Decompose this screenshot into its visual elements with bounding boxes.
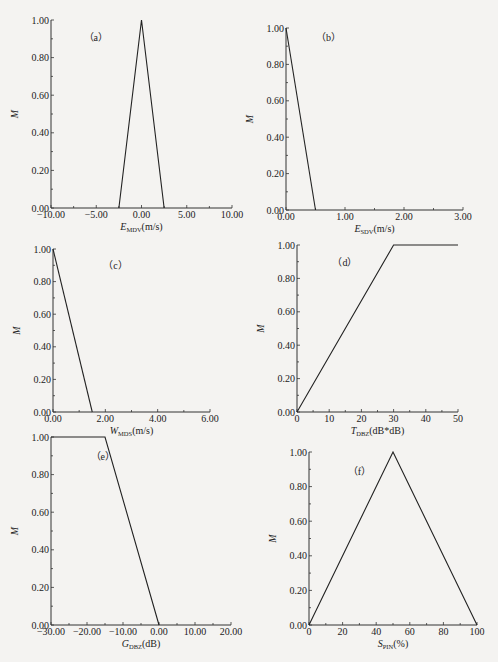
x-axis-label-variable: G bbox=[122, 638, 129, 649]
x-axis-label: EMDV(m/s) bbox=[119, 221, 162, 233]
x-axis-label: SPIN(%) bbox=[378, 638, 408, 650]
y-tick-label: 0.20 bbox=[32, 165, 50, 176]
y-tick-label: 0.20 bbox=[34, 374, 52, 385]
x-tick-label: 6.00 bbox=[201, 413, 219, 424]
y-tick-label: 1.00 bbox=[267, 23, 285, 34]
x-axis-label-subscript: DBZ bbox=[129, 643, 142, 650]
x-axis-label-unit: (%) bbox=[393, 638, 408, 650]
x-tick-label: 4.00 bbox=[149, 413, 167, 424]
y-tick-label: 0.40 bbox=[290, 550, 308, 561]
x-tick-label: −5.00 bbox=[85, 209, 108, 220]
y-tick-label: 0.60 bbox=[267, 95, 285, 106]
y-tick-label: 0.40 bbox=[32, 127, 50, 138]
y-tick-label: 0.60 bbox=[290, 516, 308, 527]
y-tick-label: 1.00 bbox=[34, 244, 52, 255]
x-tick-label: 2.00 bbox=[395, 211, 413, 222]
x-tick-label: 2.00 bbox=[97, 413, 115, 424]
x-axis-label-unit: (m/s) bbox=[142, 221, 163, 233]
x-tick-label: 40 bbox=[421, 413, 431, 424]
x-tick-label: 60 bbox=[405, 626, 415, 637]
y-tick-label: 0.80 bbox=[32, 52, 50, 63]
x-axis-label: ESDV(m/s) bbox=[353, 223, 394, 235]
x-axis-label-subscript: MDS bbox=[118, 430, 132, 437]
x-tick-label: 0.00 bbox=[44, 413, 62, 424]
x-axis-label-variable: E bbox=[353, 223, 360, 234]
x-axis-label-subscript: PIN bbox=[383, 643, 394, 650]
y-tick-label: 0.40 bbox=[32, 544, 50, 555]
y-tick-label: 0.40 bbox=[267, 132, 285, 143]
x-tick-label: 20 bbox=[338, 626, 348, 637]
y-axis-label: M bbox=[267, 534, 278, 544]
x-axis-label: TDBZ(dB*dB) bbox=[351, 425, 405, 437]
x-tick-label: 20.00 bbox=[220, 626, 243, 637]
y-tick-label: 0.80 bbox=[290, 481, 308, 492]
y-tick-label: 0.60 bbox=[34, 309, 52, 320]
subplot-a: 0.000.200.400.600.801.00−10.00−5.000.005… bbox=[9, 15, 243, 234]
membership-line bbox=[53, 249, 92, 412]
y-axis-label: M bbox=[244, 114, 255, 124]
y-axis-label: M bbox=[9, 526, 20, 536]
y-tick-label: 0.20 bbox=[32, 582, 50, 593]
x-axis-label-unit: (m/s) bbox=[374, 223, 395, 235]
x-tick-label: 0.00 bbox=[277, 211, 295, 222]
y-tick-label: 1.00 bbox=[32, 432, 50, 443]
y-tick-label: 1.00 bbox=[278, 240, 296, 251]
subplot-f: 0.000.200.400.600.801.00020406080100SPIN… bbox=[267, 447, 485, 651]
y-tick-label: 0.60 bbox=[32, 507, 50, 518]
x-axis-label-unit: (m/s) bbox=[132, 425, 153, 437]
x-tick-label: 0 bbox=[295, 413, 300, 424]
subplot-b: 0.000.200.400.600.801.000.001.002.003.00… bbox=[244, 23, 472, 236]
x-axis-label-unit: (dB) bbox=[142, 638, 160, 650]
y-tick-label: 1.00 bbox=[32, 15, 50, 26]
x-tick-label: −10.00 bbox=[109, 626, 137, 637]
y-tick-label: 0.80 bbox=[34, 276, 52, 287]
membership-line bbox=[119, 20, 164, 208]
x-tick-label: −10.00 bbox=[37, 209, 65, 220]
x-tick-label: −20.00 bbox=[73, 626, 101, 637]
x-tick-label: 50 bbox=[453, 413, 463, 424]
x-tick-label: 5.00 bbox=[178, 209, 196, 220]
membership-line bbox=[51, 437, 159, 625]
x-axis-label-variable: E bbox=[119, 221, 126, 232]
subplot-e: 0.000.200.400.600.801.00−30.00−20.00−10.… bbox=[9, 432, 242, 651]
x-axis-label-unit: (dB*dB) bbox=[369, 425, 404, 437]
x-tick-label: 80 bbox=[438, 626, 448, 637]
y-tick-label: 0.40 bbox=[34, 341, 52, 352]
y-axis-label: M bbox=[9, 109, 20, 119]
panel-label: （f） bbox=[348, 466, 371, 477]
y-tick-label: 0.20 bbox=[267, 168, 285, 179]
membership-line bbox=[286, 28, 316, 210]
x-tick-label: 0 bbox=[307, 626, 312, 637]
x-tick-label: 10.00 bbox=[221, 209, 244, 220]
y-tick-label: 0.00 bbox=[290, 620, 308, 631]
x-tick-label: 0.00 bbox=[150, 626, 168, 637]
x-tick-label: 1.00 bbox=[336, 211, 354, 222]
y-axis-label: M bbox=[11, 326, 22, 336]
y-tick-label: 1.00 bbox=[290, 447, 308, 458]
panel-label: （d） bbox=[332, 257, 357, 268]
y-tick-label: 0.80 bbox=[278, 273, 296, 284]
x-tick-label: −30.00 bbox=[37, 626, 65, 637]
panel-label: （b） bbox=[316, 32, 341, 43]
x-tick-label: 0.00 bbox=[133, 209, 151, 220]
y-tick-label: 0.20 bbox=[290, 585, 308, 596]
x-axis-label-subscript: DBZ bbox=[356, 430, 369, 437]
y-tick-label: 0.80 bbox=[32, 469, 50, 480]
x-tick-label: 100 bbox=[470, 626, 485, 637]
panel-label: （a） bbox=[84, 32, 108, 43]
subplot-d: 0.000.200.400.600.801.0001020304050TDBZ(… bbox=[255, 240, 463, 438]
figure: 0.000.200.400.600.801.00−10.00−5.000.005… bbox=[0, 0, 498, 662]
y-tick-label: 0.40 bbox=[278, 340, 296, 351]
x-axis-label-subscript: MDV bbox=[126, 226, 141, 233]
x-tick-label: 3.00 bbox=[454, 211, 472, 222]
x-tick-label: 40 bbox=[371, 626, 381, 637]
y-tick-label: 0.20 bbox=[278, 373, 296, 384]
x-axis-label: GDBZ(dB) bbox=[122, 638, 161, 650]
membership-line bbox=[297, 245, 458, 412]
panel-label: （c） bbox=[103, 260, 127, 271]
subplot-c: 0.000.200.400.600.801.000.002.004.006.00… bbox=[11, 244, 219, 438]
y-tick-label: 0.80 bbox=[267, 59, 285, 70]
x-tick-label: 10.00 bbox=[184, 626, 207, 637]
x-tick-label: 20 bbox=[356, 413, 366, 424]
x-axis-label-subscript: SDV bbox=[360, 228, 373, 235]
